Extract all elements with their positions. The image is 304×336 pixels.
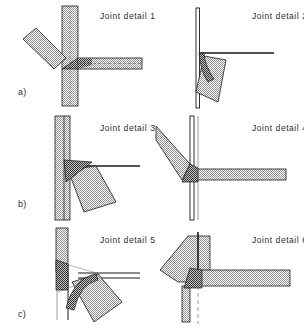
joint-detail-6-label: Joint detail 6 — [252, 236, 304, 245]
joint-detail-4-label: Joint detail 4 — [252, 124, 304, 133]
brace-member — [23, 28, 66, 69]
joint-details-figure: Joint detail 1 Joint detail 2 — [0, 0, 304, 336]
joint-detail-5-label: Joint detail 5 — [100, 236, 155, 245]
joint-detail-1-label: Joint detail 1 — [100, 12, 155, 21]
beam-member — [198, 270, 290, 286]
joint-detail-2-label: Joint detail 2 — [252, 12, 304, 21]
brace-member — [72, 274, 122, 322]
column-lower — [182, 286, 190, 322]
row-label-a: a) — [18, 88, 27, 97]
joint-detail-3-label: Joint detail 3 — [100, 124, 155, 133]
gusset-plate — [56, 260, 68, 290]
row-label-b: b) — [18, 200, 27, 209]
beam-member — [194, 169, 286, 180]
brace-member — [156, 126, 190, 180]
row-label-c: c) — [18, 310, 26, 319]
